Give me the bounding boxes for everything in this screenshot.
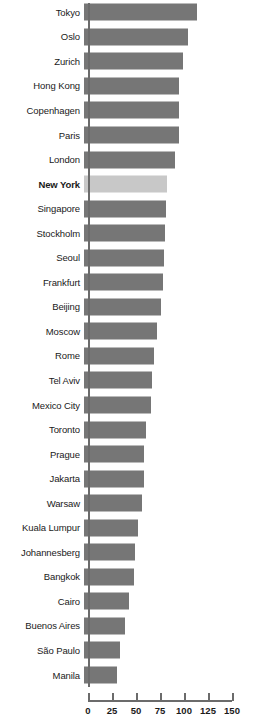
x-tick — [88, 693, 90, 701]
x-tick-label: 150 — [224, 705, 240, 717]
bar-row: Zurich — [0, 49, 253, 74]
bar-row: Manila — [0, 663, 253, 688]
x-tick — [232, 693, 234, 701]
bar — [84, 446, 144, 463]
bar-row: Prague — [0, 442, 253, 467]
bar — [84, 544, 135, 561]
bar-track — [84, 147, 253, 172]
bar-row: Buenos Aires — [0, 614, 253, 639]
bar-label: Seoul — [0, 252, 84, 263]
bar-row: London — [0, 147, 253, 172]
bar-row: Seoul — [0, 245, 253, 270]
bar-row: New York — [0, 172, 253, 197]
bar-row: Copenhagen — [0, 98, 253, 123]
bar-row: Cairo — [0, 589, 253, 614]
bar-track — [84, 614, 253, 639]
bar-track — [84, 245, 253, 270]
bar-label: Tel Aviv — [0, 375, 84, 386]
x-tick — [136, 693, 138, 701]
bar-row: Tokyo — [0, 0, 253, 25]
bar-track — [84, 172, 253, 197]
bar-track — [84, 417, 253, 442]
bar-label: São Paulo — [0, 645, 84, 656]
bar-track — [84, 466, 253, 491]
bar-track — [84, 491, 253, 516]
bar-label: Buenos Aires — [0, 620, 84, 631]
bar — [84, 274, 163, 291]
bar-track — [84, 442, 253, 467]
x-tick-label: 50 — [131, 705, 142, 717]
bar-label: Moscow — [0, 326, 84, 337]
bar-row: Jakarta — [0, 466, 253, 491]
bar — [84, 4, 197, 21]
bar — [84, 77, 179, 94]
bar — [84, 568, 134, 585]
bar-track — [84, 638, 253, 663]
bar-label: Johannesberg — [0, 547, 84, 558]
bar — [84, 28, 188, 45]
bar-label: Zurich — [0, 56, 84, 67]
bar-label: Singapore — [0, 203, 84, 214]
bar-track — [84, 565, 253, 590]
bar-label: Paris — [0, 130, 84, 141]
bar — [84, 127, 179, 144]
bar-track — [84, 221, 253, 246]
bar — [84, 249, 164, 266]
bar-label: Jakarta — [0, 473, 84, 484]
bar — [84, 151, 175, 168]
bar-row: Stockholm — [0, 221, 253, 246]
bar-track — [84, 270, 253, 295]
bar-label: Warsaw — [0, 498, 84, 509]
bar — [84, 200, 166, 217]
bar — [84, 617, 125, 634]
x-tick — [112, 693, 114, 701]
bar — [84, 53, 183, 70]
bar-label: Tokyo — [0, 7, 84, 18]
bar — [84, 102, 179, 119]
bar-label: Beijing — [0, 301, 84, 312]
bar-row: Moscow — [0, 319, 253, 344]
bar-track — [84, 123, 253, 148]
bar — [84, 519, 138, 536]
bar — [84, 470, 144, 487]
x-tick — [160, 693, 162, 701]
bar-track — [84, 344, 253, 369]
bar-track — [84, 515, 253, 540]
bar-label: Copenhagen — [0, 105, 84, 116]
bar-row: Paris — [0, 123, 253, 148]
bar-track — [84, 589, 253, 614]
x-axis: 0255075100125150 — [0, 690, 253, 724]
bar-track — [84, 295, 253, 320]
bar-track — [84, 74, 253, 99]
bar — [84, 593, 129, 610]
bar-track — [84, 319, 253, 344]
bar-track — [84, 49, 253, 74]
bar — [84, 298, 161, 315]
bar-track — [84, 98, 253, 123]
bar-row: Mexico City — [0, 393, 253, 418]
bar-track — [84, 663, 253, 688]
bar-row: Singapore — [0, 196, 253, 221]
bar-row: Bangkok — [0, 565, 253, 590]
bar-label: Prague — [0, 449, 84, 460]
bar — [84, 372, 152, 389]
bar-label: Oslo — [0, 31, 84, 42]
bar — [84, 397, 151, 414]
x-tick-label: 75 — [155, 705, 166, 717]
bar-row: Frankfurt — [0, 270, 253, 295]
bar-label: Mexico City — [0, 400, 84, 411]
x-tick — [208, 693, 210, 701]
bar-track — [84, 196, 253, 221]
bar — [84, 176, 167, 193]
bar-label: Manila — [0, 670, 84, 681]
bar-chart: TokyoOsloZurichHong KongCopenhagenParisL… — [0, 0, 253, 724]
bar — [84, 225, 165, 242]
bar — [84, 495, 142, 512]
bar-row: Hong Kong — [0, 74, 253, 99]
bar-label: Toronto — [0, 424, 84, 435]
bar-row: Kuala Lumpur — [0, 515, 253, 540]
bar-row: Tel Aviv — [0, 368, 253, 393]
bar-label: Stockholm — [0, 228, 84, 239]
bar-row: Oslo — [0, 25, 253, 50]
bar-row: Toronto — [0, 417, 253, 442]
